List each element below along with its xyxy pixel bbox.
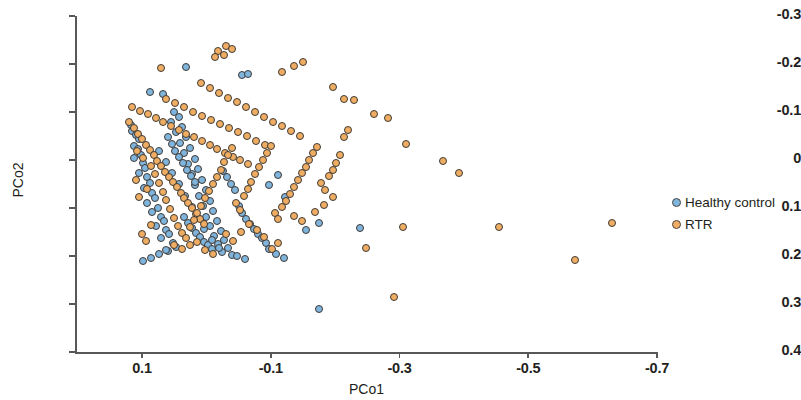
data-point — [223, 173, 231, 181]
data-point — [244, 70, 252, 78]
data-point — [236, 206, 244, 214]
data-point — [142, 237, 150, 245]
data-point — [329, 83, 337, 91]
data-point — [169, 178, 177, 186]
data-point — [329, 193, 337, 201]
data-point — [206, 222, 214, 230]
data-point — [139, 159, 147, 167]
data-point — [130, 142, 138, 150]
data-point — [175, 153, 183, 161]
data-point — [157, 162, 165, 170]
data-point — [571, 256, 579, 264]
data-point — [229, 153, 237, 161]
data-point — [198, 137, 206, 145]
data-point — [213, 145, 221, 153]
data-point — [222, 42, 230, 50]
legend-item-rtr[interactable]: RTR — [672, 213, 800, 235]
data-point — [155, 250, 163, 258]
data-point — [167, 122, 175, 130]
data-point — [193, 238, 201, 246]
data-point — [180, 149, 188, 157]
data-point — [144, 110, 152, 118]
data-point — [221, 149, 229, 157]
y-tick-mark — [69, 303, 75, 305]
data-point — [215, 244, 223, 252]
data-point — [165, 173, 173, 181]
data-point — [178, 229, 186, 237]
data-point — [455, 169, 463, 177]
data-point — [274, 239, 282, 247]
data-point — [170, 108, 178, 116]
data-point — [332, 159, 340, 167]
data-point — [216, 120, 224, 128]
data-point — [350, 96, 358, 104]
data-point — [222, 230, 230, 238]
data-point — [233, 98, 241, 106]
data-point — [127, 121, 135, 129]
data-point — [186, 144, 194, 152]
data-point — [182, 234, 190, 242]
data-point — [157, 213, 165, 221]
x-tick-mark — [527, 352, 529, 358]
data-point — [217, 166, 225, 174]
data-point — [268, 245, 276, 253]
data-point — [135, 193, 143, 201]
data-point — [132, 131, 140, 139]
data-point — [190, 216, 198, 224]
data-point — [228, 144, 236, 152]
data-point — [235, 202, 243, 210]
data-point — [194, 165, 202, 173]
data-point — [244, 185, 252, 193]
data-point — [298, 169, 306, 177]
legend-item-healthy-control[interactable]: Healthy control — [672, 191, 800, 213]
data-point — [287, 127, 295, 135]
data-point — [252, 137, 260, 145]
data-point — [280, 254, 288, 262]
data-point — [370, 110, 378, 118]
data-point — [207, 116, 215, 124]
data-point — [317, 179, 325, 187]
data-point — [199, 202, 207, 210]
data-point — [171, 99, 179, 107]
y-axis-line — [75, 16, 77, 353]
data-point — [201, 194, 209, 202]
legend-marker-healthy-control-icon — [672, 198, 681, 207]
data-point — [143, 199, 151, 207]
data-point — [194, 214, 202, 222]
data-point — [159, 188, 167, 196]
x-tick-label: -0.7 — [627, 360, 687, 376]
data-point — [305, 156, 313, 164]
data-point — [208, 245, 216, 253]
data-point — [139, 257, 147, 265]
data-point — [265, 181, 273, 189]
data-point — [198, 112, 206, 120]
data-point — [336, 151, 344, 159]
y-tick-label: -0.1 — [745, 102, 801, 118]
y-tick-mark — [69, 255, 75, 257]
data-point — [298, 217, 306, 225]
data-point — [128, 127, 136, 135]
data-point — [146, 88, 154, 96]
data-point — [290, 183, 298, 191]
data-point — [251, 170, 259, 178]
data-point — [243, 132, 251, 140]
data-point — [213, 217, 221, 225]
data-point — [175, 126, 183, 134]
x-axis-title: PCo1 — [0, 381, 733, 397]
data-point — [180, 103, 188, 111]
data-point — [176, 139, 184, 147]
data-point — [281, 193, 289, 201]
data-point — [315, 219, 323, 227]
data-point — [159, 118, 167, 126]
data-point — [184, 160, 192, 168]
data-point — [224, 94, 232, 102]
data-point — [183, 166, 191, 174]
data-point — [201, 246, 209, 254]
data-point — [148, 189, 156, 197]
data-point — [134, 130, 142, 138]
data-point — [147, 221, 155, 229]
data-point — [259, 156, 267, 164]
data-point — [274, 215, 282, 223]
data-point — [238, 71, 246, 79]
x-axis-line — [75, 352, 658, 354]
